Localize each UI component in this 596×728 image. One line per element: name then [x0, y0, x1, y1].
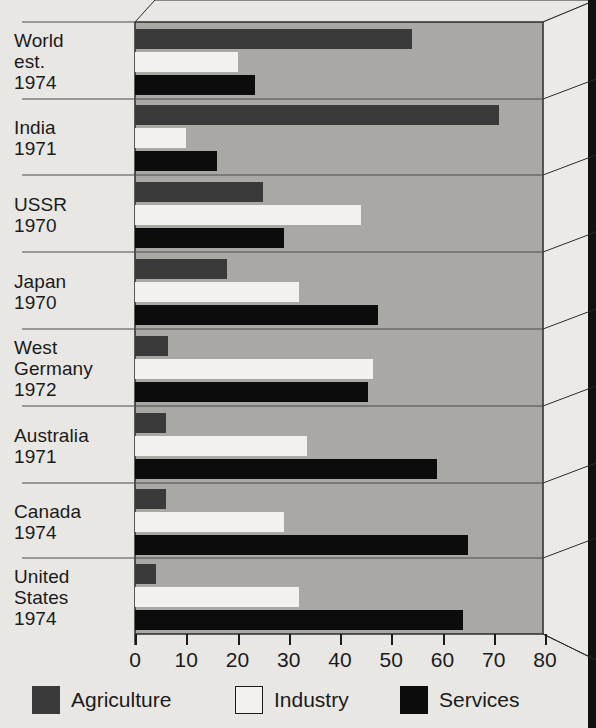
category-label: West Germany 1972 [14, 337, 93, 400]
x-axis-tick-label: 0 [129, 648, 141, 672]
bar-agriculture-australia [135, 413, 166, 433]
x-axis-tick [443, 634, 445, 645]
category-label: Canada 1974 [14, 501, 81, 543]
bar-services-world [135, 75, 255, 95]
bar-agriculture-world [135, 29, 412, 49]
bar-industry-ussr [135, 205, 361, 225]
legend-label: Services [439, 688, 520, 712]
legend-label: Agriculture [71, 688, 171, 712]
category-label: India 1971 [14, 117, 57, 159]
x-axis-tick-label: 70 [482, 648, 505, 672]
x-axis-tick [545, 634, 547, 645]
category-label: United States 1974 [14, 566, 70, 629]
category-label: Japan 1970 [14, 271, 66, 313]
bar-services-west [135, 382, 368, 402]
x-axis-tick [391, 634, 393, 645]
bar-industry-canada [135, 512, 284, 532]
bar-industry-world [135, 52, 238, 72]
x-axis-tick [289, 634, 291, 645]
legend-item-services[interactable]: Services [400, 686, 520, 714]
bar-services-india [135, 151, 217, 171]
plot-area [135, 22, 545, 634]
bar-services-canada [135, 535, 468, 555]
x-axis-tick [494, 634, 496, 645]
bar-services-united [135, 610, 463, 630]
bar-services-ussr [135, 228, 284, 248]
bar-services-japan [135, 305, 378, 325]
x-axis-tick [340, 634, 342, 645]
legend-item-agriculture[interactable]: Agriculture [32, 686, 171, 714]
x-axis-tick-label: 80 [533, 648, 556, 672]
bar-services-australia [135, 459, 437, 479]
bar-industry-india [135, 128, 186, 148]
bar-agriculture-ussr [135, 182, 263, 202]
bar-industry-west [135, 359, 373, 379]
legend-swatch-services [400, 686, 428, 714]
x-axis-tick [186, 634, 188, 645]
category-label: USSR 1970 [14, 194, 67, 236]
bar-agriculture-united [135, 564, 156, 584]
legend-item-industry[interactable]: Industry [235, 686, 349, 714]
x-axis-tick [135, 634, 137, 645]
x-axis-tick-label: 60 [431, 648, 454, 672]
category-label: Australia 1971 [14, 425, 89, 467]
legend-swatch-industry [235, 686, 263, 714]
chart-legend: AgricultureIndustryServices [16, 686, 576, 720]
x-axis-tick-label: 10 [175, 648, 198, 672]
bar-agriculture-west [135, 336, 168, 356]
grouped-bar-chart: World est. 1974India 1971USSR 1970Japan … [0, 0, 596, 728]
bar-industry-japan [135, 282, 299, 302]
bar-agriculture-japan [135, 259, 227, 279]
x-axis-tick-label: 20 [226, 648, 249, 672]
x-axis-tick [238, 634, 240, 645]
legend-swatch-agriculture [32, 686, 60, 714]
x-axis-tick-label: 50 [380, 648, 403, 672]
bar-industry-united [135, 587, 299, 607]
x-axis-tick-label: 40 [328, 648, 351, 672]
bar-agriculture-india [135, 105, 499, 125]
legend-label: Industry [274, 688, 349, 712]
category-label: World est. 1974 [14, 30, 64, 93]
category-label-column: World est. 1974India 1971USSR 1970Japan … [0, 0, 133, 640]
x-axis-tick-label: 30 [277, 648, 300, 672]
bar-agriculture-canada [135, 489, 166, 509]
bar-industry-australia [135, 436, 307, 456]
x-axis: 01020304050607080 [135, 634, 545, 635]
